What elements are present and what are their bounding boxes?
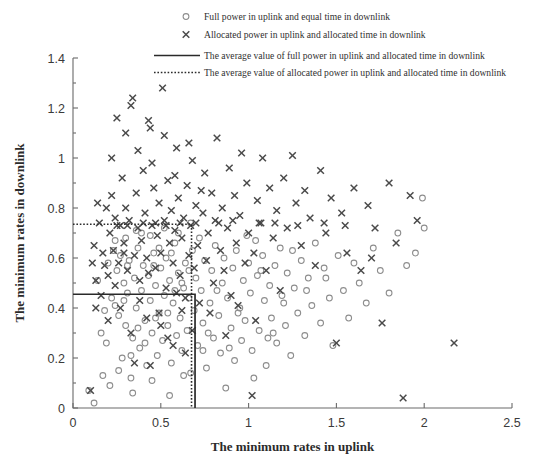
scatter-point-circle — [302, 333, 308, 339]
scatter-point-x — [252, 317, 259, 324]
scatter-point-x — [312, 262, 319, 269]
scatter-point-x — [280, 175, 287, 182]
scatter-point-circle — [284, 270, 290, 276]
scatter-point-circle — [318, 320, 324, 326]
scatter-point-circle — [232, 358, 238, 364]
scatter-point-circle — [233, 248, 239, 254]
scatter-point-x — [193, 202, 200, 209]
scatter-point-circle — [205, 330, 211, 336]
legend: Full power in uplink and equal time in d… — [154, 11, 506, 78]
scatter-point-x — [89, 260, 96, 267]
scatter-point-x — [105, 317, 112, 324]
x-tick-label: 0.5 — [152, 416, 169, 430]
scatter-point-x — [161, 132, 168, 139]
x-tick-label: 2 — [421, 416, 428, 430]
scatter-point-circle — [239, 338, 245, 344]
scatter-point-circle — [139, 288, 145, 294]
scatter-point-circle — [174, 333, 180, 339]
scatter-point-x — [112, 282, 119, 289]
scatter-point-circle — [395, 230, 401, 236]
scatter-point-x — [233, 240, 240, 247]
scatter-point-circle — [262, 298, 268, 304]
scatter-point-x — [273, 207, 280, 214]
scatter-point-x — [284, 225, 291, 232]
scatter-point-circle — [168, 360, 174, 366]
scatter-point-x — [328, 195, 335, 202]
scatter-point-circle — [230, 265, 236, 271]
scatter-point-x — [122, 130, 129, 137]
scatter-point-circle — [295, 310, 301, 316]
scatter-point-circle — [221, 255, 227, 261]
scatter-point-circle — [109, 295, 115, 301]
scatter-point-circle — [102, 308, 108, 314]
y-tick-label: 0.8 — [48, 202, 65, 216]
scatter-point-circle — [165, 323, 171, 329]
scatter-point-circle — [142, 340, 148, 346]
scatter-point-circle — [253, 238, 259, 244]
scatter-point-x — [131, 360, 138, 367]
scatter-point-x — [200, 210, 207, 217]
scatter-point-circle — [279, 293, 285, 299]
x-axis-title: The minimum rates in uplink — [211, 439, 375, 454]
scatter-point-x — [266, 185, 273, 192]
scatter-point-x — [338, 210, 345, 217]
scatter-point-circle — [177, 315, 183, 321]
scatter-point-circle — [323, 275, 329, 281]
scatter-point-x — [198, 187, 205, 194]
scatter-point-x — [135, 147, 142, 154]
scatter-point-circle — [270, 330, 276, 336]
scatter-point-x — [242, 260, 249, 267]
scatter-point-circle — [149, 330, 155, 336]
scatter-point-x — [189, 157, 196, 164]
scatter-point-circle — [240, 278, 246, 284]
scatter-point-circle — [265, 335, 271, 341]
x-tick-label: 2.5 — [503, 416, 520, 430]
scatter-point-x — [128, 102, 135, 109]
scatter-point-x — [289, 152, 296, 159]
scatter-point-x — [365, 202, 372, 209]
scatter-point-x — [142, 210, 149, 217]
scatter-point-circle — [260, 253, 266, 259]
scatter-point-circle — [298, 258, 304, 264]
scatter-point-circle — [98, 330, 104, 336]
scatter-point-circle — [351, 260, 357, 266]
scatter-point-x — [98, 292, 105, 299]
scatter-point-circle — [420, 195, 426, 201]
y-tick-label: 1 — [58, 152, 65, 166]
scatter-point-x — [231, 192, 238, 199]
scatter-point-circle — [363, 300, 369, 306]
scatter-point-circle — [135, 325, 141, 331]
scatter-point-x — [140, 220, 147, 227]
scatter-point-x — [158, 322, 165, 329]
scatter-point-x — [221, 267, 228, 274]
scatter-point-circle — [172, 240, 178, 246]
scatter-point-circle — [188, 370, 194, 376]
scatter-point-circle — [130, 335, 136, 341]
scatter-point-circle — [107, 383, 113, 389]
scatter-point-circle — [200, 320, 206, 326]
scatter-point-x — [272, 220, 279, 227]
scatter-point-circle — [304, 288, 310, 294]
scatter-point-circle — [158, 265, 164, 271]
scatter-point-circle — [267, 283, 273, 289]
scatter-point-circle — [242, 318, 248, 324]
data-points — [86, 85, 457, 406]
scatter-point-x — [138, 237, 145, 244]
scatter-point-circle — [130, 390, 136, 396]
legend-circle-icon — [183, 14, 189, 20]
scatter-point-x — [179, 235, 186, 242]
y-tick-label: 0.2 — [48, 352, 65, 366]
scatter-point-x — [344, 250, 351, 257]
scatter-point-x — [372, 225, 379, 232]
scatter-point-circle — [140, 263, 146, 269]
scatter-point-x — [386, 180, 393, 187]
scatter-point-circle — [153, 283, 159, 289]
scatter-point-x — [140, 167, 147, 174]
scatter-point-circle — [283, 323, 289, 329]
scatter-point-x — [293, 200, 300, 207]
scatter-point-x — [147, 362, 154, 369]
scatter-point-x — [129, 95, 136, 102]
scatter-point-x — [150, 185, 157, 192]
scatter-point-circle — [135, 245, 141, 251]
scatter-point-circle — [184, 328, 190, 334]
